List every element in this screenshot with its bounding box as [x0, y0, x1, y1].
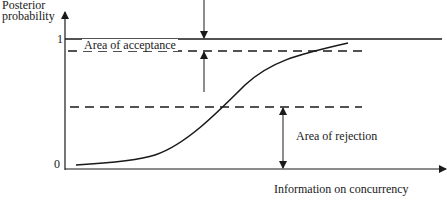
area-of-rejection-label: Area of rejection [296, 130, 377, 142]
y-tick-one: 1 [57, 33, 63, 45]
y-axis-label-line2: probability [2, 11, 55, 22]
y-tick-zero: 0 [54, 158, 60, 170]
x-axis-label: Information on concurrency [274, 183, 409, 195]
y-axis-label: Posterior probability [2, 0, 55, 22]
diagram-canvas [0, 0, 447, 201]
posterior-curve [76, 43, 348, 165]
area-of-acceptance-label: Area of acceptance [82, 39, 178, 51]
